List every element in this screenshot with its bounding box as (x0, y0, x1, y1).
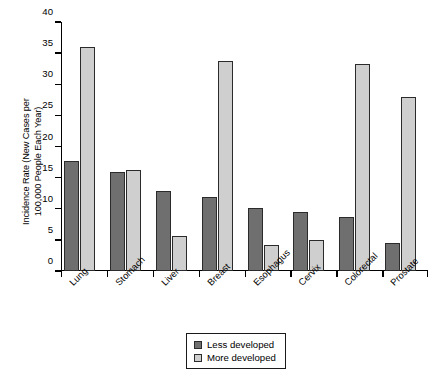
bar-group (153, 22, 199, 271)
bar-group (336, 22, 382, 271)
bar (385, 243, 400, 271)
bar (401, 97, 416, 271)
y-tick-label: 0 (48, 255, 53, 266)
bar-group (290, 22, 336, 271)
x-tick (61, 271, 62, 277)
bar (64, 161, 79, 271)
bar (218, 61, 233, 271)
chart-legend: Less developed More developed (186, 333, 286, 369)
plot-area: 0510152025303540 (61, 22, 428, 271)
bar (202, 197, 217, 271)
y-tick-label: 10 (42, 192, 53, 203)
legend-swatch-icon-less-developed (194, 341, 202, 349)
bar (80, 47, 95, 271)
y-tick-label: 20 (42, 130, 53, 141)
x-tick (336, 271, 337, 277)
legend-swatch-icon-more-developed (194, 354, 202, 362)
bar (110, 172, 125, 271)
bar-group (61, 22, 107, 271)
legend-label-less-developed: Less developed (207, 339, 274, 350)
x-tick (107, 271, 108, 277)
y-tick-label: 25 (42, 99, 53, 110)
y-tick-label: 35 (42, 37, 53, 48)
x-tick (153, 271, 154, 277)
legend-item-more-developed: More developed (194, 351, 276, 364)
bar (156, 191, 171, 271)
y-tick-label: 5 (48, 223, 53, 234)
x-tick (199, 271, 200, 277)
y-tick-label: 30 (42, 68, 53, 79)
bar-group (199, 22, 245, 271)
y-tick-label: 15 (42, 161, 53, 172)
bar-group (107, 22, 153, 271)
legend-label-more-developed: More developed (207, 352, 276, 363)
y-tick-label: 40 (42, 6, 53, 17)
bar-group (245, 22, 291, 271)
bar-group (382, 22, 428, 271)
bar-chart: Incidence Rate (New Cases per 100,000 Pe… (0, 0, 437, 380)
bar (339, 217, 354, 271)
y-axis-title: Incidence Rate (New Cases per 100,000 Pe… (21, 47, 44, 277)
bar (248, 208, 263, 271)
bar (355, 64, 370, 271)
legend-item-less-developed: Less developed (194, 338, 276, 351)
x-tick (245, 271, 246, 277)
x-tick (427, 271, 428, 277)
bar (293, 212, 308, 271)
x-tick (382, 271, 383, 277)
x-tick (290, 271, 291, 277)
